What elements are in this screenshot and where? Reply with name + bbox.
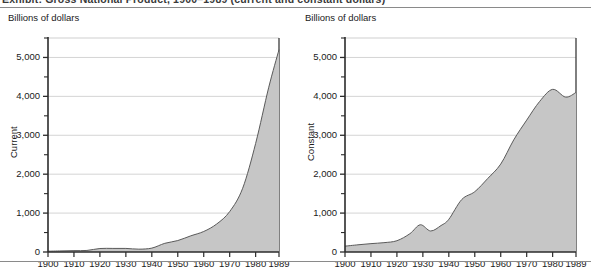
area-fill-constant: [345, 89, 576, 252]
y-tick-label: 0: [6, 246, 40, 257]
x-tick-label: 1900: [35, 258, 61, 268]
footer-rule: [0, 261, 591, 262]
chart-svg-constant: [299, 26, 589, 260]
unit-label-current: Billions of dollars: [8, 12, 79, 23]
x-tick-label: 1989: [266, 258, 292, 268]
figure-title-clipped: Exhibit: Gross National Product, 1900–19…: [0, 0, 591, 7]
unit-label-constant: Billions of dollars: [305, 12, 376, 23]
chart-svg-current: [2, 26, 292, 260]
x-tick-label: 1970: [514, 258, 540, 268]
y-tick-label: 5,000: [6, 51, 40, 62]
x-tick-label: 1970: [217, 258, 243, 268]
x-tick-label: 1950: [165, 258, 191, 268]
figure-root: Exhibit: Gross National Product, 1900–19…: [0, 0, 591, 268]
y-tick-label: 4,000: [303, 90, 337, 101]
y-tick-label: 2,000: [303, 168, 337, 179]
y-tick-label: 3,000: [303, 129, 337, 140]
x-tick-label: 1980: [243, 258, 269, 268]
x-tick-label: 1910: [61, 258, 87, 268]
x-tick-label: 1910: [358, 258, 384, 268]
header-rule: [0, 7, 591, 8]
chart-panel-constant: Billions of dollars Constant 5,0004,0003…: [299, 12, 589, 260]
x-tick-label: 1940: [139, 258, 165, 268]
y-tick-label: 3,000: [6, 129, 40, 140]
figure-title-text: Exhibit: Gross National Product, 1900–19…: [2, 0, 385, 5]
y-tick-label: 4,000: [6, 90, 40, 101]
x-tick-label: 1900: [332, 258, 358, 268]
x-tick-label: 1960: [191, 258, 217, 268]
y-tick-label: 2,000: [6, 168, 40, 179]
x-tick-label: 1980: [540, 258, 566, 268]
plot-area-current: Current 5,0004,0003,0002,0001,0000190019…: [2, 26, 292, 260]
x-tick-label: 1930: [410, 258, 436, 268]
x-tick-label: 1920: [87, 258, 113, 268]
x-tick-label: 1930: [113, 258, 139, 268]
chart-panel-current: Billions of dollars Current 5,0004,0003,…: [2, 12, 292, 260]
y-tick-label: 0: [303, 246, 337, 257]
x-tick-label: 1950: [462, 258, 488, 268]
y-tick-label: 1,000: [6, 207, 40, 218]
area-fill-current: [48, 50, 279, 252]
x-tick-label: 1940: [436, 258, 462, 268]
y-tick-label: 1,000: [303, 207, 337, 218]
x-tick-label: 1960: [488, 258, 514, 268]
y-tick-label: 5,000: [303, 51, 337, 62]
plot-area-constant: Constant 5,0004,0003,0002,0001,000019001…: [299, 26, 589, 260]
x-tick-label: 1989: [563, 258, 589, 268]
x-tick-label: 1920: [384, 258, 410, 268]
